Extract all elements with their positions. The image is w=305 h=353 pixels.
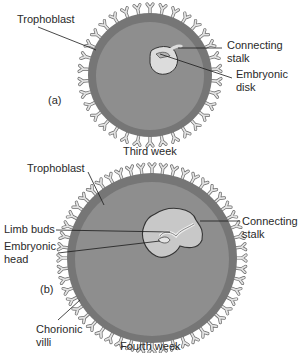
third-week-chorion — [38, 4, 232, 146]
connecting-stalk-label-b: Connecting — [242, 215, 298, 227]
limb-buds-label: Limb buds — [4, 223, 55, 235]
embryonic-head-label-2: head — [4, 253, 28, 265]
embryonic-disk-label: Embryonic — [236, 68, 288, 80]
chorionic-villi-label: Chorionic — [36, 323, 82, 335]
chorionic-villi-label-2: villi — [36, 336, 51, 348]
third-week-caption: Third week — [123, 145, 177, 157]
trophoblast-label-b: Trophoblast — [27, 162, 85, 174]
diagram-canvas — [0, 0, 305, 353]
fourth-week-chorion — [56, 164, 246, 352]
connecting-stalk-label-a: Connecting — [227, 39, 283, 51]
embryonic-head-label: Embryonic — [4, 240, 56, 252]
fourth-week-caption: Fourth week — [120, 340, 181, 352]
trophoblast-label-a: Trophoblast — [17, 13, 75, 25]
panel-a-tag: (a) — [48, 94, 61, 106]
panel-b-tag: (b) — [40, 283, 53, 295]
connecting-stalk-label-b-2: stalk — [242, 228, 265, 240]
connecting-stalk-label-a-2: stalk — [227, 52, 250, 64]
embryonic-disk-label-2: disk — [236, 81, 256, 93]
